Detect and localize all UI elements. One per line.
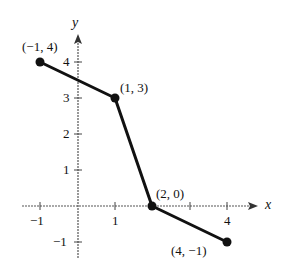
point-2-0 [148,202,157,211]
point-4-neg1 [223,238,232,247]
x-axis-arrow-icon [248,202,258,210]
y-tick-label-neg1: −1 [53,235,67,248]
annotation-1-3: (1, 3) [120,81,148,94]
point-1-3 [111,94,120,103]
x-tick-label-1: 1 [112,214,119,227]
annotation-4-neg1: (4, −1) [171,244,207,257]
y-axis-label: y [72,16,78,30]
y-tick-label-3: 3 [63,91,70,104]
x-tick-label-4: 4 [224,214,231,227]
chart-root: y x −1 1 4 −1 1 2 3 4 (−1, 4) (1, 3) (2,… [0,0,287,275]
y-axis-arrow-icon [74,34,82,44]
y-tick-label-1: 1 [63,163,70,176]
x-axis-label: x [265,198,271,212]
annotation-2-0: (2, 0) [156,187,184,200]
y-tick-label-2: 2 [63,127,70,140]
x-tick-label-neg1: −1 [30,214,44,227]
y-tick-label-4: 4 [63,55,70,68]
annotation-neg1-4: (−1, 4) [22,40,58,53]
point-neg1-4 [36,58,45,67]
